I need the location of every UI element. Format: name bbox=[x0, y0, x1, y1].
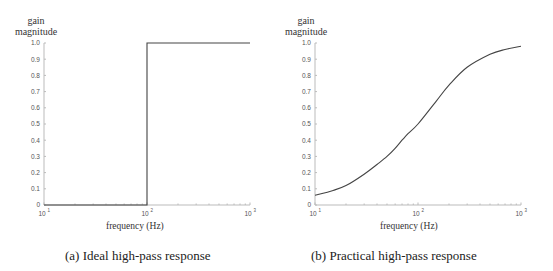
y-tick-label: 0.6 bbox=[302, 104, 311, 111]
y-tick-label: 1.0 bbox=[302, 39, 311, 46]
panel-ideal: gain magnitude 00.10.20.30.40.50.60.70.8… bbox=[0, 0, 276, 271]
svg-text:2: 2 bbox=[422, 208, 425, 213]
y-tick-label: 0 bbox=[36, 201, 40, 208]
svg-text:3: 3 bbox=[525, 208, 528, 213]
svg-text:2: 2 bbox=[151, 208, 154, 213]
y-tick-label: 0.7 bbox=[302, 88, 311, 95]
x-tick-label: 10 bbox=[412, 210, 420, 217]
y-tick-label: 0.1 bbox=[31, 185, 40, 192]
svg-text:1: 1 bbox=[319, 208, 322, 213]
y-tick-label: 0.9 bbox=[31, 56, 40, 63]
x-tick-label: 10 bbox=[244, 210, 252, 217]
caption-b: (b) Practical high-pass response bbox=[311, 248, 477, 264]
y-tick-label: 1.0 bbox=[31, 39, 40, 46]
y-tick-label: 0.8 bbox=[302, 72, 311, 79]
series-line bbox=[44, 43, 250, 205]
y-tick-label: 0.9 bbox=[302, 56, 311, 63]
x-axis-label: frequency (Hz) bbox=[106, 221, 164, 231]
y-tick-label: 0.3 bbox=[31, 153, 40, 160]
x-tick-label: 10 bbox=[141, 210, 149, 217]
x-tick-label: 10 bbox=[515, 210, 523, 217]
y-tick-label: 0 bbox=[307, 201, 311, 208]
x-tick-label: 10 bbox=[38, 210, 46, 217]
panel-practical: gain magnitude 00.10.20.30.40.50.60.70.8… bbox=[276, 0, 552, 271]
y-tick-label: 0.6 bbox=[31, 104, 40, 111]
svg-text:3: 3 bbox=[254, 208, 257, 213]
svg-text:1: 1 bbox=[48, 208, 51, 213]
y-tick-label: 0.7 bbox=[31, 88, 40, 95]
x-axis-label: frequency (Hz) bbox=[380, 221, 438, 231]
y-tick-label: 0.5 bbox=[302, 120, 311, 127]
y-tick-label: 0.2 bbox=[302, 169, 311, 176]
caption-a: (a) Ideal high-pass response bbox=[65, 248, 210, 264]
series-line bbox=[315, 46, 521, 195]
y-tick-label: 0.4 bbox=[302, 137, 311, 144]
x-tick-label: 10 bbox=[309, 210, 317, 217]
y-tick-label: 0.3 bbox=[302, 153, 311, 160]
y-tick-label: 0.5 bbox=[31, 120, 40, 127]
y-tick-label: 0.1 bbox=[302, 185, 311, 192]
y-tick-label: 0.2 bbox=[31, 169, 40, 176]
y-tick-label: 0.4 bbox=[31, 137, 40, 144]
y-tick-label: 0.8 bbox=[31, 72, 40, 79]
